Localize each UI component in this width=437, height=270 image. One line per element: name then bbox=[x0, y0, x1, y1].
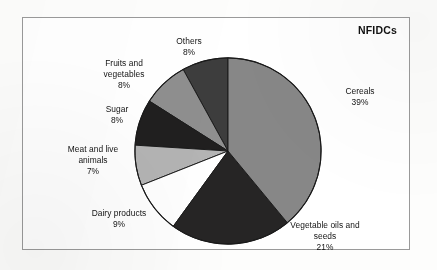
chart-frame: NFIDCs Others 8% Fruits and vegetables 8… bbox=[22, 17, 410, 250]
screenshot-root: NFIDCs Others 8% Fruits and vegetables 8… bbox=[0, 0, 437, 270]
slice-label-vegetable-oils-and-seeds: Vegetable oils and seeds 21% bbox=[271, 220, 379, 254]
slice-label-others-value: 8% bbox=[151, 47, 227, 58]
slice-label-dairy-products: Dairy products 9% bbox=[71, 208, 167, 230]
slice-label-cereals-value: 39% bbox=[319, 97, 401, 108]
slice-label-cereals-name: Cereals bbox=[319, 86, 401, 97]
slice-label-vegoils-value: 21% bbox=[271, 242, 379, 253]
slice-label-others-name: Others bbox=[151, 36, 227, 47]
slice-label-meat-name-2: animals bbox=[45, 155, 141, 166]
chart-title: NFIDCs bbox=[358, 24, 397, 36]
slice-label-fruits-name-1: Fruits and bbox=[81, 58, 167, 69]
slice-label-sugar-value: 8% bbox=[77, 115, 157, 126]
slice-label-meat-value: 7% bbox=[45, 166, 141, 177]
slice-label-fruits-value: 8% bbox=[81, 80, 167, 91]
slice-label-cereals: Cereals 39% bbox=[319, 86, 401, 108]
slice-label-others: Others 8% bbox=[151, 36, 227, 58]
slice-label-dairy-value: 9% bbox=[71, 219, 167, 230]
slice-label-vegoils-name-2: seeds bbox=[271, 231, 379, 242]
slice-label-fruits-name-2: vegetables bbox=[81, 69, 167, 80]
slice-label-sugar-name: Sugar bbox=[77, 104, 157, 115]
slice-label-sugar: Sugar 8% bbox=[77, 104, 157, 126]
slice-label-vegoils-name-1: Vegetable oils and bbox=[271, 220, 379, 231]
slice-label-fruits-and-vegetables: Fruits and vegetables 8% bbox=[81, 58, 167, 92]
slice-label-dairy-name: Dairy products bbox=[71, 208, 167, 219]
slice-label-meat-name-1: Meat and live bbox=[45, 144, 141, 155]
slice-label-meat-and-live-animals: Meat and live animals 7% bbox=[45, 144, 141, 178]
